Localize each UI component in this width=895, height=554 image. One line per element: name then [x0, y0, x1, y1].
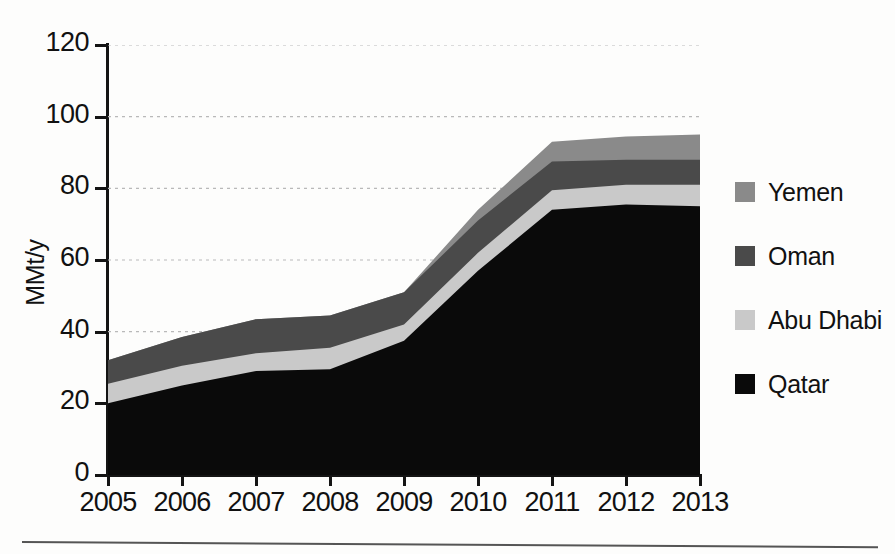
y-tick-label: 120: [33, 27, 89, 58]
y-tick-mark: [95, 331, 108, 334]
chart-legend: YemenOmanAbu DhabiQatar: [735, 160, 895, 416]
y-tick-label: 0: [33, 457, 89, 488]
y-tick-label: 20: [33, 385, 89, 416]
plot-area: [108, 45, 700, 475]
x-tick-mark: [107, 474, 110, 486]
x-tick-mark: [699, 474, 702, 486]
legend-item-yemen[interactable]: Yemen: [735, 160, 895, 224]
legend-swatch-icon: [735, 246, 755, 266]
y-tick-label: 60: [33, 242, 89, 273]
x-tick-mark: [551, 474, 554, 486]
y-tick-mark: [95, 187, 108, 190]
legend-item-label: Yemen: [768, 178, 843, 207]
legend-item-oman[interactable]: Oman: [735, 224, 895, 288]
y-tick-label: 80: [33, 170, 89, 201]
legend-swatch-icon: [735, 182, 755, 202]
legend-item-label: Qatar: [768, 370, 829, 399]
y-tick-mark: [95, 402, 108, 405]
page-divider-rule: [22, 541, 878, 548]
y-tick-mark: [95, 259, 108, 262]
x-tick-mark: [477, 474, 480, 486]
y-tick-label: 40: [33, 314, 89, 345]
x-tick-mark: [329, 474, 332, 486]
legend-item-label: Oman: [768, 242, 835, 271]
y-tick-mark: [95, 44, 108, 47]
legend-item-label: Abu Dhabi: [768, 306, 882, 335]
x-tick-mark: [403, 474, 406, 486]
x-tick-mark: [181, 474, 184, 486]
figure-container: MMt/y 020406080100120 200520062007200820…: [0, 0, 895, 554]
y-tick-label: 100: [33, 99, 89, 130]
stacked-area-chart: [108, 45, 700, 475]
y-tick-mark: [95, 116, 108, 119]
x-tick-mark: [625, 474, 628, 486]
y-axis-tick-labels: 020406080100120: [27, 0, 89, 554]
x-tick-mark: [255, 474, 258, 486]
x-tick-label: 2013: [655, 487, 745, 518]
legend-swatch-icon: [735, 374, 755, 394]
legend-item-qatar[interactable]: Qatar: [735, 352, 895, 416]
legend-swatch-icon: [735, 310, 755, 330]
legend-item-abu-dhabi[interactable]: Abu Dhabi: [735, 288, 895, 352]
